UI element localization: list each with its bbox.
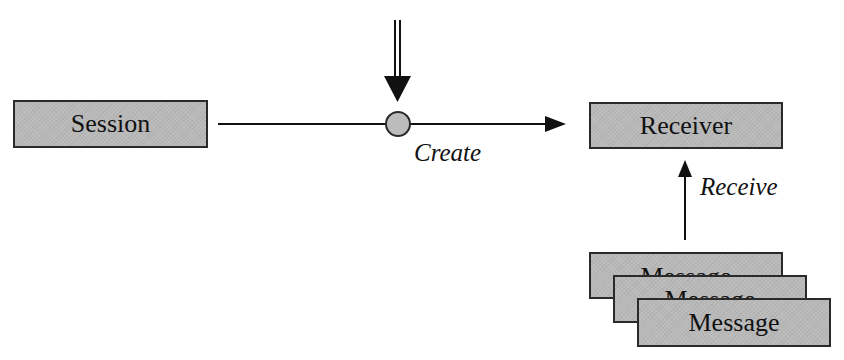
message-box-front[interactable]: Message (637, 298, 831, 347)
receive-edge-label: Receive (700, 174, 778, 199)
session-label: Session (71, 111, 150, 137)
junction-circle-icon (386, 112, 410, 136)
receiver-box[interactable]: Receiver (589, 102, 783, 149)
receive-arrowhead-icon (678, 160, 692, 177)
create-edge-label: Create (414, 140, 481, 165)
incoming-arrowhead-icon (384, 76, 411, 102)
session-box[interactable]: Session (13, 100, 208, 148)
message-label: Message (689, 310, 780, 336)
create-arrowhead-icon (545, 116, 566, 132)
receiver-label: Receiver (640, 113, 732, 139)
